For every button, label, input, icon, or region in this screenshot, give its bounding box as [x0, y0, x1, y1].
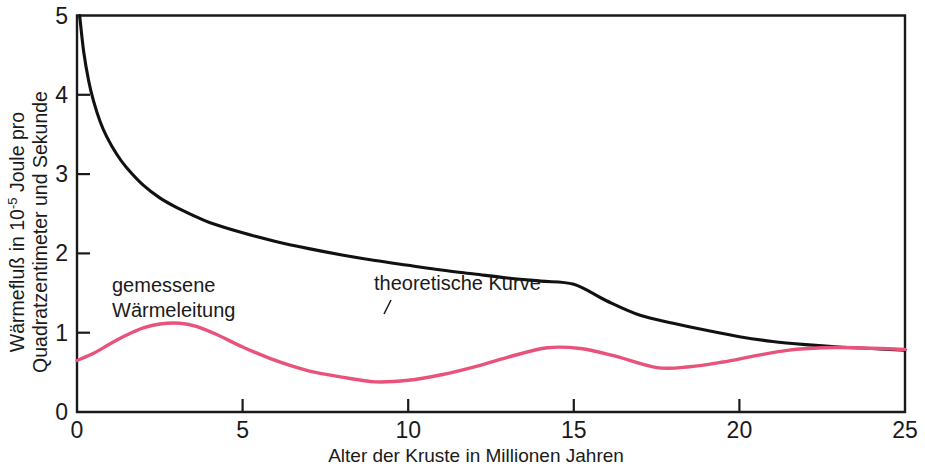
heat-flow-chart-figure: 0510152025 012345 Alter der Kruste in Mi…	[0, 0, 925, 471]
annotation-measured: gemessene Wärmeleitung	[112, 274, 235, 321]
y-axis-title-line-2: Quadratzentimeter und Sekunde	[29, 91, 51, 373]
y-axis-title-line-1: Wärmefluß in 10-5 Joule pro	[5, 112, 28, 352]
y-axis-title-prefix: Wärmefluß in 10	[6, 209, 28, 352]
x-axis-title: Alter der Kruste in Millionen Jahren	[328, 445, 624, 466]
annotation-measured-line-2: Wärmeleitung	[112, 299, 235, 321]
y-tick-label-5: 5	[55, 3, 68, 29]
chart-canvas: 0510152025 012345 Alter der Kruste in Mi…	[0, 0, 925, 471]
y-tick-label-1: 1	[55, 320, 68, 346]
annotation-leader-line	[384, 300, 391, 314]
measured-curve-line	[77, 323, 905, 382]
x-tick-label-group: 0510152025	[71, 417, 918, 443]
y-axis-title-exponent: -5	[5, 198, 20, 210]
x-axis-ticks	[243, 399, 740, 412]
annotation-theoretical-label: theoretische Kurve	[374, 272, 541, 294]
x-tick-label-0: 0	[71, 417, 84, 443]
y-tick-label-3: 3	[55, 161, 68, 187]
y-axis-title-suffix: Joule pro	[6, 112, 28, 198]
annotation-theoretical: theoretische Kurve	[374, 272, 541, 314]
y-tick-label-4: 4	[55, 82, 68, 108]
x-tick-label-5: 5	[236, 417, 249, 443]
x-tick-label-25: 25	[892, 417, 918, 443]
data-series-group	[77, 16, 905, 383]
x-tick-label-20: 20	[727, 417, 753, 443]
y-tick-label-0: 0	[55, 399, 68, 425]
y-axis-ticks	[77, 95, 90, 333]
y-tick-label-group: 012345	[55, 3, 68, 426]
annotation-measured-line-1: gemessene	[112, 274, 215, 296]
y-axis-title-group: Wärmefluß in 10-5 Joule pro Quadratzenti…	[5, 91, 51, 373]
x-tick-label-15: 15	[561, 417, 587, 443]
x-tick-label-10: 10	[395, 417, 421, 443]
y-tick-label-2: 2	[55, 240, 68, 266]
